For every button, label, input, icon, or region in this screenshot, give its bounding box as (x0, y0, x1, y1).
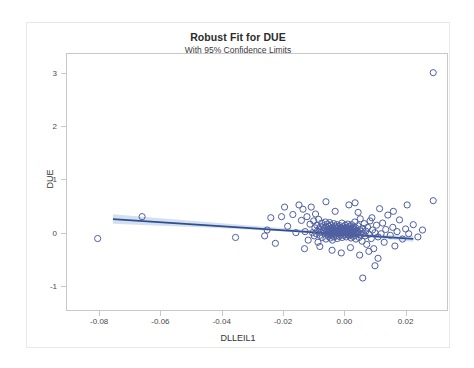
y-tick-label: 1 (27, 175, 57, 184)
scatter-point (285, 223, 291, 229)
x-tick-label: -0.06 (151, 317, 169, 326)
scatter-point (95, 235, 101, 241)
scatter-point (347, 245, 353, 251)
chart-title: Robust Fit for DUE (27, 31, 449, 44)
scatter-point (304, 214, 310, 220)
scatter-point (301, 246, 307, 252)
x-tick-label: -0.08 (90, 317, 108, 326)
scatter-plot-svg (67, 54, 447, 310)
scatter-point (278, 214, 284, 220)
scatter-point (262, 233, 268, 239)
scatter-point (332, 208, 338, 214)
x-tick-label: 0.02 (398, 317, 414, 326)
scatter-point (268, 215, 274, 221)
scatter-point (415, 234, 421, 240)
scatter-point (430, 198, 436, 204)
x-tick-mark (99, 311, 100, 316)
plot-area (66, 53, 448, 311)
scatter-point (346, 202, 352, 208)
x-tick-label: -0.04 (213, 317, 231, 326)
scatter-point (404, 202, 410, 208)
scatter-point (323, 199, 329, 205)
x-tick-mark (406, 311, 407, 316)
scatter-point (385, 212, 391, 218)
scatter-point (272, 240, 278, 246)
scatter-point (376, 206, 382, 212)
y-tick-mark (61, 233, 66, 234)
chart-figure: Robust Fit for DUE With 95% Confidence L… (26, 22, 450, 348)
scatter-point (390, 208, 396, 214)
scatter-point (373, 222, 379, 228)
x-tick-mark (283, 311, 284, 316)
scatter-point (392, 243, 398, 249)
x-axis-label: DLLEIL1 (27, 333, 449, 343)
y-tick-mark (61, 179, 66, 180)
scatter-point (375, 255, 381, 261)
scatter-point (329, 247, 335, 253)
scatter-point (338, 250, 344, 256)
y-tick-mark (61, 286, 66, 287)
scatter-point (308, 204, 314, 210)
scatter-point (430, 70, 436, 76)
x-tick-label: -0.02 (274, 317, 292, 326)
scatter-point (290, 211, 296, 217)
scatter-point (232, 234, 238, 240)
x-tick-mark (344, 311, 345, 316)
y-tick-label: 3 (27, 68, 57, 77)
scatter-point (410, 222, 416, 228)
scatter-point (305, 237, 311, 243)
y-tick-label: -1 (27, 282, 57, 291)
scatter-point (419, 227, 425, 233)
scatter-point (380, 220, 386, 226)
scatter-point (366, 248, 372, 254)
x-tick-mark (222, 311, 223, 316)
scatter-point (364, 241, 370, 247)
scatter-point (357, 252, 363, 258)
scatter-points (95, 70, 437, 282)
y-tick-mark (61, 126, 66, 127)
x-tick-label: 0.00 (337, 317, 353, 326)
scatter-point (360, 275, 366, 281)
scatter-point (372, 263, 378, 269)
y-tick-label: 0 (27, 228, 57, 237)
scatter-point (300, 206, 306, 212)
scatter-point (383, 226, 389, 232)
scatter-point (352, 200, 358, 206)
scatter-point (396, 217, 402, 223)
x-tick-mark (160, 311, 161, 316)
scatter-point (394, 229, 400, 235)
y-tick-label: 2 (27, 122, 57, 131)
y-tick-mark (61, 73, 66, 74)
scatter-point (281, 204, 287, 210)
scatter-point (355, 209, 361, 215)
scatter-point (298, 217, 304, 223)
scatter-point (381, 239, 387, 245)
